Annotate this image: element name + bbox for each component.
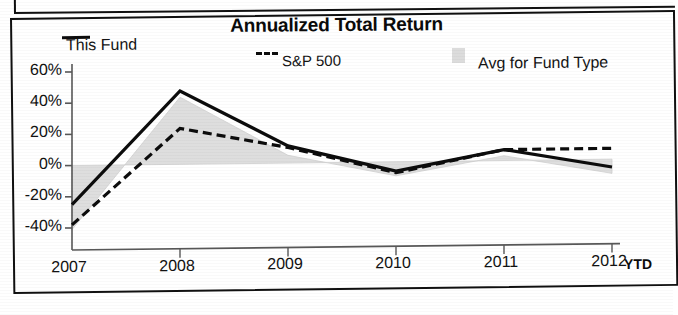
x-axis-ytd-note: YTD xyxy=(624,256,652,272)
y-tick-neg40pct: -40% xyxy=(4,217,62,236)
y-tick-20pct: 20% xyxy=(4,123,62,142)
y-tick-60pct: 60% xyxy=(4,61,62,80)
x-tick-2010: 2010 xyxy=(358,254,428,273)
x-tick-2011: 2011 xyxy=(466,253,536,272)
x-tick-2008: 2008 xyxy=(142,256,212,275)
x-tick-2007: 2007 xyxy=(34,258,104,277)
x-tick-2009: 2009 xyxy=(250,255,320,274)
y-tick-neg20pct: -20% xyxy=(4,186,62,205)
y-tick-40pct: 40% xyxy=(4,92,62,111)
y-tick-0pct: 0% xyxy=(4,154,62,173)
